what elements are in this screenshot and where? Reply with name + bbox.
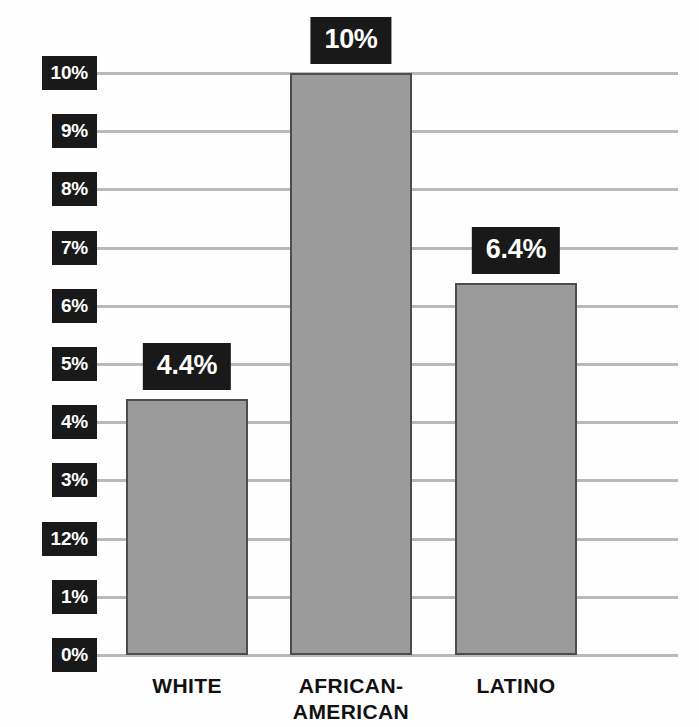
y-axis-tick-label: 10% (42, 56, 97, 90)
y-axis-tick-label: 12% (42, 522, 97, 556)
y-axis-tick-label: 3% (52, 463, 97, 497)
y-axis-tick-label: 4% (52, 405, 97, 439)
bar-chart: 10%9%8%7%6%5%4%3%12%1%0% 4.4%10%6.4% WHI… (0, 0, 699, 727)
y-axis-tick-label: 9% (52, 114, 97, 148)
y-axis-tick-label: 7% (52, 231, 97, 265)
bar (455, 283, 577, 655)
y-axis-tick-label: 0% (52, 638, 97, 672)
bar (126, 399, 248, 655)
plot-area: 10%9%8%7%6%5%4%3%12%1%0% 4.4%10%6.4% WHI… (0, 0, 699, 727)
y-axis-tick-label: 8% (52, 172, 97, 206)
bar-value-label: 4.4% (143, 343, 231, 390)
x-axis-category-label: WHITE (152, 673, 222, 699)
bar (290, 73, 412, 655)
y-axis-tick-label: 6% (52, 289, 97, 323)
y-axis-tick-label: 1% (52, 580, 97, 614)
x-axis-category-label: AFRICAN- AMERICAN (293, 673, 409, 724)
bar-value-label: 6.4% (472, 227, 560, 274)
y-axis-tick-label: 5% (52, 347, 97, 381)
bar-value-label: 10% (310, 17, 391, 64)
x-axis-category-label: LATINO (477, 673, 556, 699)
